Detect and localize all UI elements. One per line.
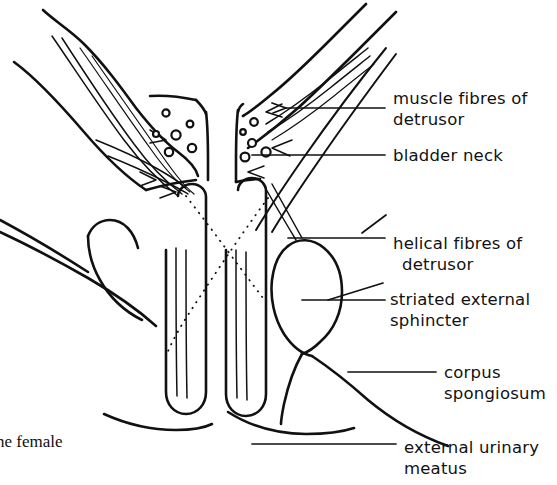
label-line-2: spongiosum [444,383,546,404]
label-striated-external-sphincter: striated external sphincter [390,289,530,331]
label-bladder-neck: bladder neck [393,145,503,166]
left-bladder-wall [14,10,208,198]
right-bladder-wall [236,4,396,240]
label-line-1: external urinary [404,438,539,457]
left-urethral-column [166,184,206,414]
label-line-2: detrusor [393,109,528,130]
right-urethral-column [226,178,266,416]
cropped-caption-fragment: ne female [0,432,63,452]
label-line-1: bladder neck [393,146,503,165]
left-sphincter-bulge [0,220,212,430]
anatomical-figure: muscle fibres of detrusor bladder neck h… [0,0,557,485]
label-helical-fibres-of-detrusor: helical fibres of detrusor [393,233,522,275]
label-line-1: muscle fibres of [393,89,528,108]
label-line-1: corpus [444,363,501,382]
label-line-2: meatus [404,458,539,479]
label-muscle-fibres-of-detrusor: muscle fibres of detrusor [393,88,528,130]
label-line-1: striated external [390,290,530,309]
label-line-1: helical fibres of [393,234,522,253]
label-corpus-spongiosum: corpus spongiosum [444,362,546,404]
label-line-2: detrusor [393,254,522,275]
label-external-urinary-meatus: external urinary meatus [404,437,539,479]
label-line-2: sphincter [390,310,530,331]
dotted-lumen-guides [166,196,268,356]
